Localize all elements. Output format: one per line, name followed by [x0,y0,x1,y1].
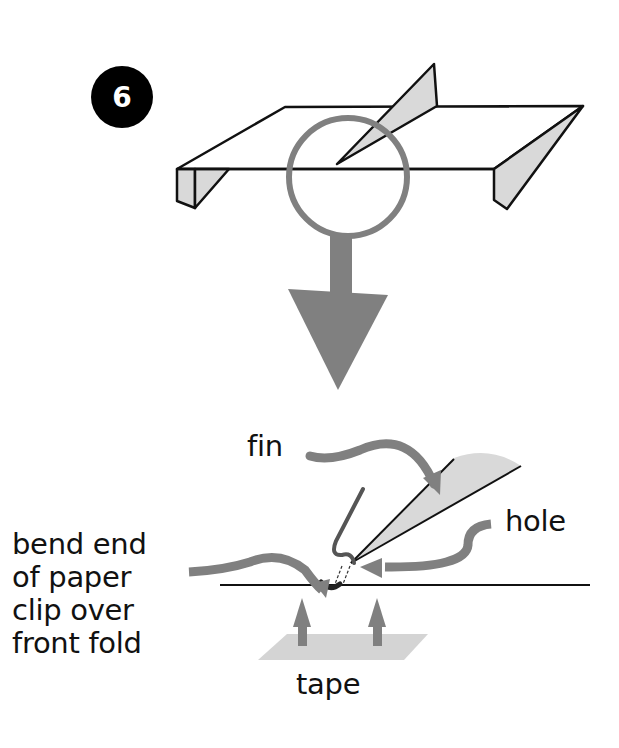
label-bend-line-4: front fold [12,627,147,660]
label-hole: hole [505,505,566,538]
step-badge: 6 [91,66,153,128]
detail-view [189,444,590,660]
label-bend-instruction: bend end of paper clip over front fold [12,528,147,660]
label-bend-line-2: of paper [12,561,147,594]
label-bend-line-3: clip over [12,594,147,627]
airplane-overview [177,64,583,209]
label-tape: tape [296,668,360,701]
label-bend-line-1: bend end [12,528,147,561]
label-fin: fin [247,430,283,463]
step-number: 6 [112,81,131,114]
zoom-arrow-icon [288,236,388,390]
